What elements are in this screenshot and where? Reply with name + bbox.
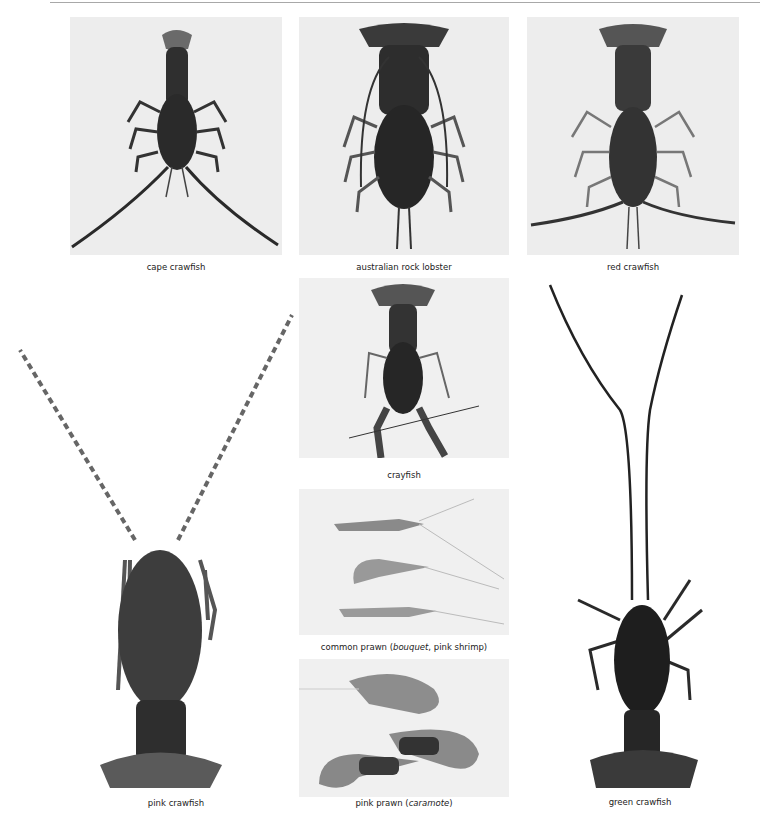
crayfish-illustration [299, 278, 509, 458]
caption-australian-rock-lobster: australian rock lobster [299, 262, 509, 272]
lobster-illustration [527, 17, 739, 255]
lobster-illustration [299, 17, 509, 255]
caption-crayfish: crayfish [299, 470, 509, 480]
prawn-illustration [299, 489, 509, 635]
caption-pink-crawfish: pink crawfish [70, 798, 282, 808]
crayfish-photo [299, 278, 509, 458]
lobster-illustration [70, 17, 282, 255]
cape-crawfish-photo [70, 17, 282, 255]
green-crawfish-photo [540, 280, 740, 790]
lobster-illustration [10, 310, 300, 788]
caption-pink-prawn: pink prawn (caramote) [299, 798, 509, 808]
red-crawfish-photo [527, 17, 739, 255]
pink-prawn-photo [299, 659, 509, 797]
caption-green-crawfish: green crawfish [540, 797, 740, 807]
lobster-illustration [540, 280, 740, 790]
common-prawn-photo [299, 489, 509, 635]
caption-red-crawfish: red crawfish [527, 262, 739, 272]
caption-common-prawn: common prawn (bouquet, pink shrimp) [299, 642, 509, 652]
australian-rock-lobster-photo [299, 17, 509, 255]
prawn-illustration [299, 659, 509, 797]
caption-cape-crawfish: cape crawfish [70, 262, 282, 272]
pink-crawfish-photo [10, 310, 300, 788]
page-top-rule [50, 2, 760, 3]
